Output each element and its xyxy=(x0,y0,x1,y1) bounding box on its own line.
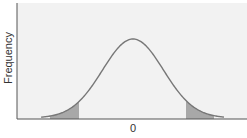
chart xyxy=(0,0,247,138)
plot-area xyxy=(17,3,247,119)
y-axis-label: Frequency xyxy=(2,28,14,88)
x-tick-zero: 0 xyxy=(128,122,138,134)
